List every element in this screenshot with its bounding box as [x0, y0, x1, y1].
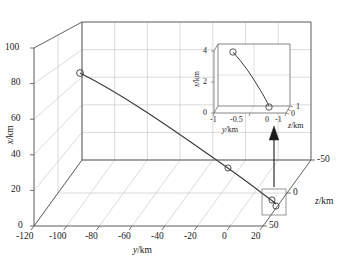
inset-x-tick-2: 2 — [203, 78, 207, 86]
inset-axes-box — [214, 44, 290, 113]
inset-z-tick-0: 0 — [291, 110, 295, 118]
main-z-tick-m50: -50 — [317, 155, 330, 165]
inset-y-tick-0: 0 — [265, 116, 269, 124]
main-y-tick-20: 20 — [251, 232, 261, 242]
main-x-tick-0: 0 — [18, 221, 23, 231]
main-x-tick-20: 20 — [11, 185, 21, 195]
main-z-tick-0: 0 — [293, 188, 298, 198]
figure-3d-trajectory — [0, 0, 363, 267]
main-y-tick-m40: -40 — [151, 232, 164, 242]
inset-x-tick-0: 0 — [203, 109, 207, 117]
inset-z-tick-m1: -1 — [275, 116, 282, 124]
main-z-axis-label: z/km — [315, 197, 333, 207]
main-y-tick-m100: -100 — [49, 232, 66, 242]
inset-y-tick-m1: -1 — [210, 116, 217, 124]
main-y-axis-ticks — [31, 226, 263, 230]
inset-x-tick-4: 4 — [203, 47, 207, 55]
main-x-tick-100: 100 — [5, 43, 19, 53]
main-y-tick-0: 0 — [222, 232, 227, 242]
main-x-tick-80: 80 — [11, 78, 21, 88]
inset-y-tick-m05: -0.5 — [230, 116, 243, 124]
inset-y-axis-label: y/km — [222, 126, 238, 134]
main-y-tick-m120: -120 — [16, 232, 33, 242]
main-x-axis-label: x/km — [6, 115, 16, 155]
main-y-tick-m80: -80 — [85, 232, 98, 242]
inset-x-axis-label: x/km — [193, 62, 201, 96]
main-y-tick-m60: -60 — [118, 232, 131, 242]
inset-z-tick-1: 1 — [296, 103, 300, 111]
main-y-axis-label: y/km — [133, 246, 152, 256]
main-y-tick-m20: -20 — [184, 232, 197, 242]
main-z-tick-50: 50 — [269, 221, 279, 231]
inset-z-axis-label: z/km — [288, 122, 304, 130]
main-x-axis-ticks — [30, 48, 34, 226]
